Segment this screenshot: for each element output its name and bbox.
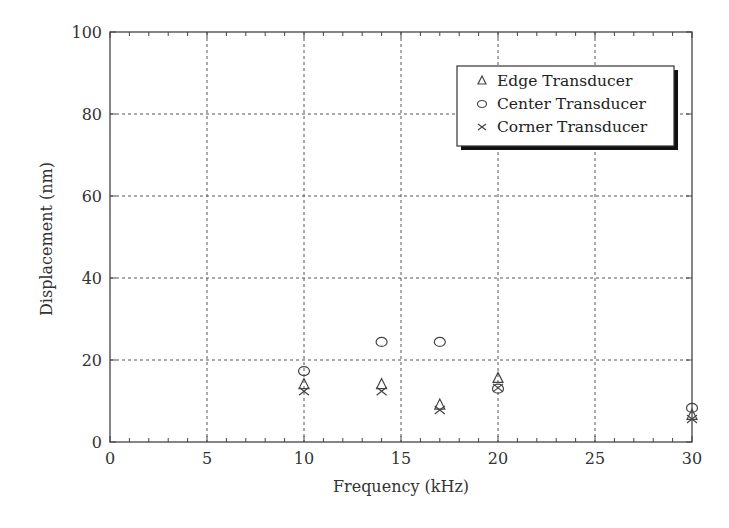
x-axis-tick-labels: 051015202530 bbox=[105, 449, 702, 468]
x-tick-label: 15 bbox=[391, 449, 411, 468]
x-tick-label: 0 bbox=[105, 449, 115, 468]
x-tick-label: 5 bbox=[202, 449, 212, 468]
x-tick-label: 20 bbox=[488, 449, 508, 468]
y-tick-label: 80 bbox=[82, 105, 102, 124]
y-tick-label: 100 bbox=[71, 23, 102, 42]
legend-item-center: Center Transducer bbox=[478, 95, 647, 113]
legend-label-corner: Corner Transducer bbox=[497, 118, 648, 136]
x-tick-label: 25 bbox=[585, 449, 605, 468]
y-tick-label: 60 bbox=[82, 187, 102, 206]
triangle-marker-icon bbox=[377, 379, 387, 389]
legend-item-edge: Edge Transducer bbox=[478, 72, 633, 90]
legend-item-corner: Corner Transducer bbox=[478, 118, 648, 136]
circle-marker-icon bbox=[434, 337, 445, 346]
y-axis-label: Displacement (nm) bbox=[37, 162, 56, 316]
y-tick-label: 20 bbox=[82, 351, 102, 370]
legend-label-center: Center Transducer bbox=[497, 95, 646, 113]
y-tick-label: 40 bbox=[82, 269, 102, 288]
x-marker-icon bbox=[493, 384, 503, 392]
legend-label-edge: Edge Transducer bbox=[497, 72, 633, 90]
circle-marker-icon bbox=[376, 337, 387, 346]
legend: Edge Transducer Center Transducer Corner… bbox=[457, 66, 678, 150]
x-marker-icon bbox=[435, 406, 445, 414]
scatter-chart: 051015202530 020406080100 Frequency (kHz… bbox=[0, 0, 729, 528]
y-axis-tick-labels: 020406080100 bbox=[71, 23, 102, 452]
x-axis-label: Frequency (kHz) bbox=[333, 477, 469, 496]
x-tick-label: 30 bbox=[682, 449, 702, 468]
x-tick-label: 10 bbox=[294, 449, 314, 468]
y-tick-label: 0 bbox=[92, 433, 102, 452]
